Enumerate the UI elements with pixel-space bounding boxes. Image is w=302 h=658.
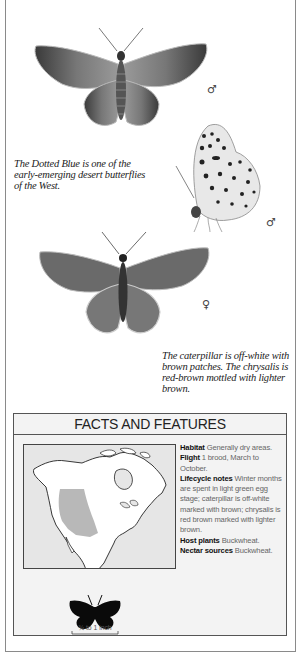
fact-label: Flight [180, 453, 200, 462]
fact-lifecycle: Lifecycle notes Winter months are spent … [180, 474, 286, 536]
fact-value: Buckwheat. [222, 536, 260, 545]
fact-label: Habitat [180, 443, 205, 452]
caption-line: brown patches. The chrysalis is [162, 361, 296, 372]
facts-title: FACTS AND FEATURES [14, 414, 286, 435]
butterfly-female-upperside-illustration [36, 228, 216, 338]
fact-nectar-sources: Nectar sources Buckwheat. [180, 546, 286, 556]
butterfly-male-underside-illustration [168, 122, 268, 232]
caption-line: red-brown mottled with lighter [162, 372, 296, 383]
size-label: ¾ to 1 inch [64, 624, 126, 631]
caption-line: The Dotted Blue is one of the [14, 158, 154, 169]
fact-value: Buckwheat. [235, 546, 273, 555]
facts-and-features-box: FACTS AND FEATURES Habitat Generally dry… [13, 413, 287, 636]
north-america-map-icon [24, 445, 176, 569]
fact-label: Lifecycle notes [180, 474, 233, 483]
caption-caterpillar: The caterpillar is off-white with brown … [162, 350, 296, 394]
fact-habitat: Habitat Generally dry areas. [180, 443, 286, 453]
male-symbol-2: ♂ [266, 216, 276, 229]
facts-list: Habitat Generally dry areas. Flight 1 br… [180, 443, 286, 556]
fact-label: Host plants [180, 536, 220, 545]
fact-host-plants: Host plants Buckwheat. [180, 536, 286, 546]
fact-value: Generally dry areas. [207, 443, 272, 452]
caption-line: The caterpillar is off-white with [162, 350, 296, 361]
male-symbol-1: ♂ [207, 83, 217, 96]
butterfly-male-upperside-illustration [32, 24, 212, 134]
female-symbol: ♀ [202, 298, 210, 311]
caption-intro: The Dotted Blue is one of the early-emer… [14, 158, 154, 191]
fact-flight: Flight 1 brood, March to October. [180, 453, 286, 474]
caption-line: brown. [162, 383, 296, 394]
fact-label: Nectar sources [180, 546, 233, 555]
caption-line: of the West. [14, 180, 154, 191]
caption-line: early-emerging desert butterflies [14, 169, 154, 180]
range-map [23, 444, 176, 569]
